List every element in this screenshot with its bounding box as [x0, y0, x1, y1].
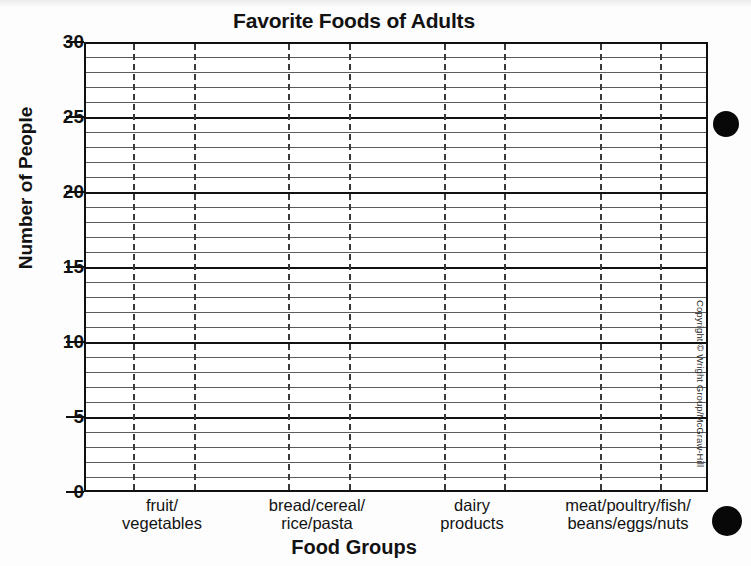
y-tick-mark-25: [66, 116, 84, 118]
x-category-label-1-line-2: vegetables: [122, 514, 202, 532]
gridline-horizontal-major: [86, 417, 706, 419]
gridline-vertical-dashed: [133, 44, 135, 490]
gridline-horizontal-minor: [86, 372, 706, 373]
top-bullet-dot-icon: [713, 111, 739, 137]
y-tick-mark-5: [66, 416, 84, 418]
gridline-horizontal-minor: [86, 237, 706, 238]
x-category-label-3-line-2: products: [440, 514, 503, 532]
x-category-label-2-line-1: bread/cereal/: [269, 496, 365, 514]
gridline-vertical-dashed: [288, 44, 290, 490]
worksheet-page: Favorite Foods of Adults 051015202530 Nu…: [0, 0, 751, 566]
x-category-label-2: bread/cereal/rice/pasta: [269, 496, 365, 532]
x-category-label-4-line-2: beans/eggs/nuts: [565, 514, 691, 532]
gridline-horizontal-minor: [86, 222, 706, 223]
gridline-vertical-dashed: [444, 44, 446, 490]
gridline-horizontal-minor: [86, 162, 706, 163]
x-category-label-1-line-1: fruit/: [122, 496, 202, 514]
gridline-horizontal-minor: [86, 72, 706, 73]
gridline-vertical-dashed: [660, 44, 662, 490]
x-category-label-1: fruit/vegetables: [122, 496, 202, 532]
gridline-horizontal-minor: [86, 57, 706, 58]
gridline-horizontal-minor: [86, 477, 706, 478]
gridline-horizontal-minor: [86, 297, 706, 298]
gridline-horizontal-minor: [86, 252, 706, 253]
bottom-bullet-dot-icon: [712, 506, 742, 536]
gridline-horizontal-minor: [86, 282, 706, 283]
gridline-vertical-dashed: [349, 44, 351, 490]
gridline-horizontal-minor: [86, 432, 706, 433]
gridline-horizontal-major: [86, 192, 706, 194]
x-category-label-3: dairyproducts: [440, 496, 503, 532]
gridline-horizontal-major: [86, 342, 706, 344]
y-tick-mark-15: [66, 266, 84, 268]
gridline-horizontal-major: [86, 267, 706, 269]
gridline-horizontal-minor: [86, 327, 706, 328]
gridline-horizontal-minor: [86, 207, 706, 208]
y-tick-mark-30: [66, 41, 84, 43]
x-axis-title: Food Groups: [0, 536, 708, 559]
y-tick-mark-10: [66, 341, 84, 343]
gridline-horizontal-minor: [86, 87, 706, 88]
x-category-label-3-line-1: dairy: [440, 496, 503, 514]
x-category-label-4: meat/poultry/fish/beans/eggs/nuts: [565, 496, 691, 532]
gridline-horizontal-minor: [86, 402, 706, 403]
gridline-vertical-dashed: [504, 44, 506, 490]
gridline-horizontal-minor: [86, 132, 706, 133]
x-category-label-4-line-1: meat/poultry/fish/: [565, 496, 691, 514]
y-tick-mark-0: [66, 491, 84, 493]
copyright-notice: Copyright © Wright Group/McGraw-Hill: [695, 300, 706, 530]
gridline-horizontal-minor: [86, 177, 706, 178]
gridline-vertical-dashed: [600, 44, 602, 490]
gridline-horizontal-minor: [86, 312, 706, 313]
x-category-label-2-line-2: rice/pasta: [269, 514, 365, 532]
gridline-horizontal-minor: [86, 147, 706, 148]
gridline-vertical-dashed: [194, 44, 196, 490]
gridline-horizontal-minor: [86, 357, 706, 358]
gridline-horizontal-minor: [86, 387, 706, 388]
gridline-horizontal-major: [86, 117, 706, 119]
scan-edge-artifact: [0, 0, 751, 7]
plot-area: [84, 42, 708, 492]
chart-title: Favorite Foods of Adults: [0, 9, 708, 33]
y-axis: 051015202530: [0, 0, 84, 566]
y-tick-mark-20: [66, 191, 84, 193]
gridline-horizontal-minor: [86, 447, 706, 448]
y-axis-title: Number of People: [15, 78, 37, 298]
gridline-horizontal-minor: [86, 462, 706, 463]
gridline-horizontal-minor: [86, 102, 706, 103]
